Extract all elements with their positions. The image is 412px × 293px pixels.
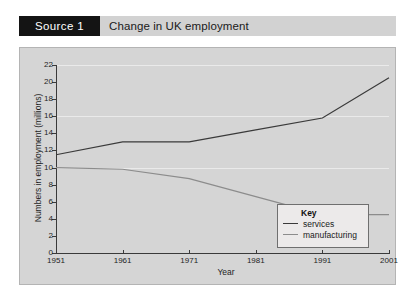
legend-item-services: services [283,218,368,229]
legend-item-manufacturing: manufacturing [283,229,368,240]
chart-frame: 0246810121416182022 19511961197119811991… [19,47,396,285]
legend-swatch-services [283,223,298,224]
x-tick-label: 1981 [241,256,271,265]
legend-label: manufacturing [303,230,357,240]
legend-label: services [303,219,334,229]
x-tick-label: 1951 [41,256,71,265]
x-tick-label: 1971 [174,256,204,265]
plot-area: 0246810121416182022 19511961197119811991… [56,65,396,254]
figure-title: Change in UK employment [100,16,249,36]
x-tick-label: 2001 [374,256,404,265]
series-line-services [56,78,389,155]
x-tick-label: 1991 [307,256,337,265]
y-axis-title: Numbers in employment (millions) [33,78,43,238]
legend-rows: servicesmanufacturing [278,218,368,240]
x-tick-label: 1961 [108,256,138,265]
legend-title: Key [301,208,368,218]
source-badge: Source 1 [19,16,100,36]
legend-swatch-manufacturing [283,234,298,235]
figure-container: Source 1 Change in UK employment 0246810… [0,0,412,293]
legend-key-box: Key servicesmanufacturing [277,204,369,248]
source-header-bar: Source 1 Change in UK employment [19,16,396,36]
y-tick-label: 22 [35,61,53,69]
x-axis-title: Year [176,267,276,277]
